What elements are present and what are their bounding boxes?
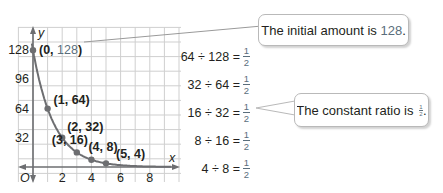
x-tick-label: 4 — [88, 171, 95, 185]
fraction: 12 — [243, 46, 250, 67]
point-label: (1, 64) — [54, 93, 90, 107]
data-point — [88, 157, 94, 163]
y-tick-label: 32 — [15, 131, 29, 145]
callout-initial-amount: The initial amount is 128. — [258, 14, 409, 46]
point-label: (5, 4) — [116, 147, 145, 161]
fraction: 12 — [243, 158, 250, 179]
origin-label: O — [20, 171, 30, 185]
y-axis-arrow-down — [30, 175, 36, 183]
y-axis-label: y — [37, 26, 45, 40]
callout-initial-leader — [84, 26, 260, 42]
x-tick-label: 6 — [117, 171, 124, 185]
x-axis-arrow-left — [18, 164, 26, 170]
y-tick-label: 64 — [15, 102, 29, 116]
callout-constant-ratio: The constant ratio is 12. — [294, 93, 429, 127]
fraction: 12 — [243, 74, 250, 95]
data-point — [30, 47, 36, 53]
point-label: (4, 8) — [88, 140, 117, 154]
equation-row: 64 ÷ 128 =12 — [181, 46, 250, 67]
data-point — [74, 149, 80, 155]
point-label: (2, 32) — [67, 120, 103, 134]
equation-row: 32 ÷ 64 =12 — [188, 74, 250, 95]
callout-ratio-pointer — [254, 98, 296, 118]
point-label: (0, 128) — [39, 43, 82, 57]
x-tick-label: 2 — [59, 171, 66, 185]
data-point — [44, 105, 50, 111]
x-axis-label: x — [168, 151, 176, 165]
equation-row: 8 ÷ 16 =12 — [195, 130, 250, 151]
data-point — [103, 160, 109, 166]
point-labels: (0, 128)(1, 64)(2, 32)(3, 16)(4, 8)(5, 4… — [39, 43, 145, 161]
y-tick-label: 96 — [15, 72, 29, 86]
x-tick-label: 8 — [146, 171, 153, 185]
equation-row: 16 ÷ 32 =12 — [188, 102, 250, 123]
point-label: (3, 16) — [52, 133, 88, 147]
fraction: 12 — [243, 102, 250, 123]
equation-row: 4 ÷ 8 =12 — [202, 158, 250, 179]
y-tick-label: 128 — [8, 43, 29, 57]
fraction: 12 — [243, 130, 250, 151]
